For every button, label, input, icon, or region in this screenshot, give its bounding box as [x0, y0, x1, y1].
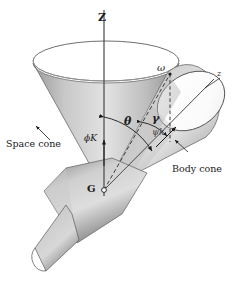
axis-Z-label: Z — [98, 12, 106, 23]
body-cone-label: Body cone — [172, 164, 222, 174]
apex-point-G — [102, 188, 107, 193]
space-cone-label: Space cone — [6, 139, 61, 149]
omega-tip-point — [168, 72, 171, 75]
phi-K-label: ϕK — [84, 134, 97, 143]
theta-label: θ — [124, 116, 131, 127]
axis-z-label: z — [217, 70, 221, 78]
gamma-label: γ — [152, 113, 159, 124]
omega-label: ω — [157, 63, 165, 73]
center-G-label: G — [87, 184, 96, 194]
spacecraft-nozzle — [32, 205, 79, 271]
figure-canvas: Z z ω θ γ ϕK ψk Space cone Body cone G — [0, 0, 240, 283]
psi-k-label: ψk — [152, 128, 165, 137]
